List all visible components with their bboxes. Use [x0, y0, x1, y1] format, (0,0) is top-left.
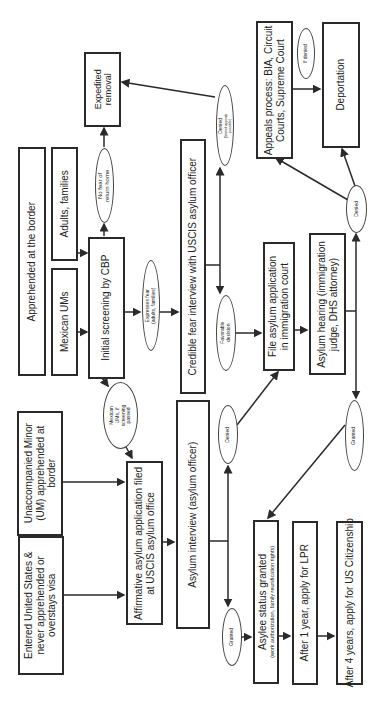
node-initial-screening: Initial screening by CBP: [88, 237, 125, 379]
node-label: Apprehended at the border: [26, 202, 38, 322]
decision-label: Granted: [229, 628, 235, 646]
node-asylee-status-granted: Asylee status granted (work authorizatio…: [253, 520, 279, 684]
node-affirmative-asylum-application: Affirmative asylum application filed at …: [126, 461, 163, 625]
node-label-line2: never apprehended or: [35, 552, 47, 659]
node-label-line1: Affirmative asylum application filed: [133, 466, 145, 619]
decision-mexican-ums-screening: Mexican UMs, if screening passed: [103, 382, 138, 449]
decision-granted-hearing: Granted: [345, 400, 364, 471]
node-appeals-process: Appeals process: BIA, Circuit Courts, Su…: [256, 21, 293, 159]
decision-denied-hearing: Denied: [346, 185, 367, 233]
node-label-line1: File asylum application: [268, 256, 280, 357]
decision-denied-limited-appeals: Denied (limited appeals possible): [216, 85, 234, 166]
node-label: Credible fear interview with USCIS asylu…: [187, 158, 199, 376]
node-label: After 1 year, apply for LPR: [299, 544, 311, 661]
node-deportation: Deportation: [322, 22, 360, 148]
decision-denied-interview: Denied: [218, 405, 238, 464]
node-label: Adults, families: [59, 170, 71, 237]
decision-granted-interview: Granted: [222, 608, 242, 666]
decision-label-line2: decision: [226, 322, 232, 344]
node-after-1-year: After 1 year, apply for LPR: [292, 521, 318, 685]
decision-label: Denied: [225, 427, 231, 443]
node-file-asylum-application: File asylum application in immigration c…: [263, 242, 295, 371]
node-mexican-ums: Mexican UMs: [51, 268, 78, 376]
node-label-line3: border: [46, 423, 58, 523]
node-label: Deportation: [335, 59, 347, 111]
node-asylum-hearing: Asylum hearing (immigration judge, DHS a…: [309, 233, 346, 375]
node-label: After 4 years, apply for US Citizenship: [344, 519, 356, 688]
node-unaccompanied-minor: Unaccompanied Minor (UM) apprehended at …: [17, 411, 63, 536]
decision-sublabel-line1: (limited appeals: [224, 113, 228, 138]
node-label-line1: Asylum hearing (immigration: [316, 241, 328, 368]
node-label: Asylum interview (asylum officer): [187, 442, 199, 588]
node-label-line3: overstays visa: [47, 552, 59, 659]
node-label-line2: judge, DHS attorney): [328, 241, 340, 368]
node-after-4-years: After 4 years, apply for US Citizenship: [336, 521, 363, 685]
decision-label-line2: return home: [105, 169, 112, 201]
decision-label: If denied: [303, 44, 309, 63]
node-label-line1: Appeals process: BIA, Circuit: [263, 25, 275, 155]
decision-label: Denied: [218, 113, 224, 138]
decision-label-line4: passed: [126, 405, 132, 427]
decision-label: Granted: [352, 426, 358, 444]
decision-label-line2: (adults, families): [151, 287, 157, 323]
node-entered-united-states: Entered United States & never apprehende…: [18, 536, 64, 675]
node-label-line2: (UM) apprehended at: [34, 423, 46, 523]
decision-label: Denied: [354, 201, 360, 217]
node-label: Initial screening by CBP: [101, 255, 113, 361]
node-label-line1: Unaccompanied Minor: [23, 423, 35, 523]
node-label-line2: at USCIS asylum office: [145, 466, 157, 619]
node-asylum-interview: Asylum interview (asylum officer): [176, 400, 210, 629]
decision-if-denied: If denied: [297, 28, 315, 79]
decision-no-fear: No fear of return home: [95, 148, 114, 223]
node-label-line2: Courts, Supreme Court: [275, 25, 287, 155]
decision-expresses-fear: Expresses fear (adults, families): [142, 260, 160, 351]
node-adults-families: Adults, families: [51, 147, 78, 261]
node-credible-fear-interview: Credible fear interview with USCIS asylu…: [180, 139, 206, 394]
node-label: Expedited removal: [92, 65, 113, 115]
node-label-line2: in immigration court: [279, 256, 291, 357]
node-expedited-removal: Expedited removal: [84, 52, 121, 127]
decision-sublabel-line2: possible): [228, 113, 232, 138]
node-label: Mexican UMs: [59, 292, 71, 353]
node-apprehended-at-border: Apprehended at the border: [18, 147, 46, 376]
node-label: Asylee status granted: [257, 546, 269, 658]
node-sublabel: (work authorization, family reunificatio…: [269, 546, 275, 658]
node-label-line1: Entered United States &: [24, 552, 36, 659]
decision-favorable: Favorable decision: [216, 295, 236, 371]
